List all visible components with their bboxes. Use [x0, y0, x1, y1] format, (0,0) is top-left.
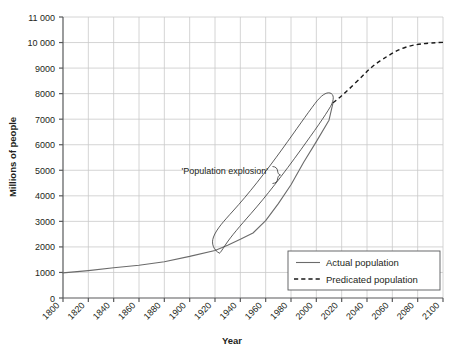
chart-canvas: 11 000 10 000 9000 8000 7000 6000 5000 4… [0, 0, 452, 351]
y-tick-label: 4000 [35, 191, 55, 201]
x-tick-label: 1900 [167, 300, 188, 321]
y-tick-label: 7000 [35, 115, 55, 125]
chart-legend: Actual population Predicated population [288, 251, 440, 290]
y-tick-label: 8000 [35, 89, 55, 99]
x-tick-label: 1960 [243, 300, 264, 321]
y-axis-title: Millions of people [7, 117, 18, 197]
x-tick-label: 1920 [192, 300, 213, 321]
population-growth-chart: 11 000 10 000 9000 8000 7000 6000 5000 4… [0, 0, 452, 351]
x-tick-label: 2040 [344, 300, 365, 321]
y-tick-label: 1000 [35, 268, 55, 278]
legend-label-predicated: Predicated population [326, 274, 418, 285]
x-tick-label: 1860 [116, 300, 137, 321]
x-tick-label: 2100 [420, 300, 441, 321]
x-tick-label: 2060 [370, 300, 391, 321]
x-tick-label: 2000 [294, 300, 315, 321]
x-tick-label: 1880 [142, 300, 163, 321]
y-tick-label: 9000 [35, 64, 55, 74]
legend-label-actual: Actual population [326, 257, 399, 268]
y-tick-label: 5000 [35, 166, 55, 176]
x-tick-label: 2080 [395, 300, 416, 321]
x-tick-label: 1820 [66, 300, 87, 321]
x-tick-label: 1940 [218, 300, 239, 321]
y-tick-label: 10 000 [27, 38, 55, 48]
y-tick-label: 2000 [35, 242, 55, 252]
x-tick-label: 1840 [91, 300, 112, 321]
y-tick-label: 3000 [35, 217, 55, 227]
y-tick-label: 6000 [35, 140, 55, 150]
x-axis-tick-labels: 1800 1820 1840 1860 1880 1900 1920 1940 … [40, 300, 441, 321]
y-axis-tick-labels: 11 000 10 000 9000 8000 7000 6000 5000 4… [27, 13, 55, 304]
x-axis-title: Year [222, 335, 242, 346]
population-explosion-annotation: 'Population explosion' [182, 166, 269, 176]
y-tick-label: 11 000 [28, 13, 55, 23]
x-tick-label: 1800 [40, 300, 61, 321]
x-tick-label: 2020 [319, 300, 340, 321]
x-tick-label: 1980 [268, 300, 289, 321]
